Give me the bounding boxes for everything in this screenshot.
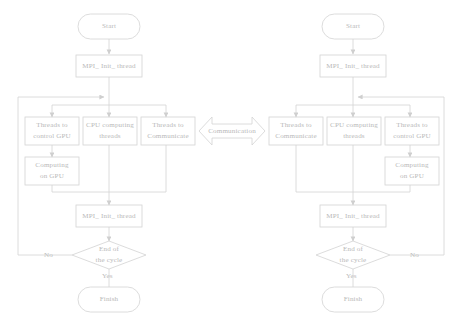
left-task-control-gpu-shape [25, 117, 79, 145]
right-task-control-gpu-shape [385, 117, 439, 145]
left-mpi-init-bottom-shape [76, 205, 142, 227]
right-task-communicate-shape [269, 117, 323, 145]
right-start-shape [322, 14, 384, 39]
left-decision-yes-label: Yes [102, 272, 113, 280]
right-task-cpu-threads-shape [327, 117, 381, 145]
left-gpu-compute-shape [25, 157, 79, 185]
right-finish-shape [322, 287, 384, 312]
right-mpi-init-top-shape [320, 55, 386, 77]
left-finish-shape [78, 287, 140, 312]
left-task-cpu-threads-shape [83, 117, 137, 145]
right-mpi-init-bottom-shape [320, 205, 386, 227]
left-decision-no-label: No [44, 251, 53, 259]
flowchart-canvas: Start MPI_ Init_ thread Threads to contr… [0, 0, 462, 325]
left-mpi-init-top-shape [76, 55, 142, 77]
left-task-communicate-shape [141, 117, 195, 145]
right-decision-shape [316, 241, 390, 269]
left-start-shape [78, 14, 140, 39]
flowchart-vector-layer [0, 0, 462, 325]
right-decision-yes-label: Yes [346, 272, 357, 280]
right-gpu-compute-shape [385, 157, 439, 185]
right-decision-no-label: No [410, 251, 419, 259]
communication-double-arrow-shape [199, 117, 265, 145]
left-decision-shape [72, 241, 146, 269]
